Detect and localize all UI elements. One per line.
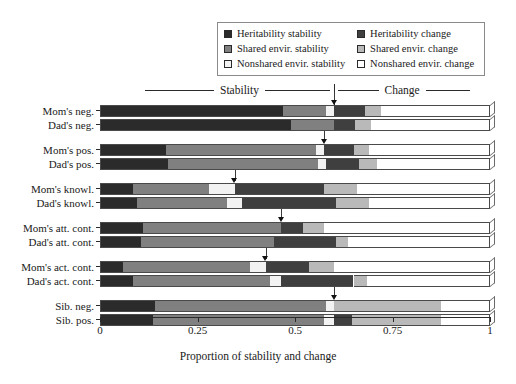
boundary-marker-arrow xyxy=(278,217,284,222)
bar-end-cap xyxy=(489,197,490,209)
bar-segment-heritability-change xyxy=(266,261,309,273)
bar-segment-shared-envir-stability xyxy=(123,261,250,273)
bar-segment-nonshared-envir-stability xyxy=(326,105,334,117)
bar-end-cap xyxy=(489,183,490,195)
bar-segment-shared-envir-change xyxy=(359,158,377,170)
bar-segment-nonshared-envir-change xyxy=(381,105,490,117)
bar-segment-shared-envir-stability xyxy=(133,183,209,195)
y-axis-label-11: Sib. pos. xyxy=(0,314,100,326)
bar-segment-shared-envir-stability xyxy=(133,275,270,287)
bar-segment-shared-envir-stability xyxy=(155,300,327,312)
y-axis-label-10: Sib. neg. xyxy=(0,300,100,312)
figure-panel: Heritability stability Heritability chan… xyxy=(0,0,516,384)
bar-segment-nonshared-envir-stability xyxy=(250,261,266,273)
legend-label: Nonshared envir. stability xyxy=(237,57,345,71)
header-rule xyxy=(145,90,214,91)
bar-segment-shared-envir-stability xyxy=(291,119,334,131)
legend-label: Heritability stability xyxy=(237,27,322,41)
boundary-marker-arrow xyxy=(262,256,268,261)
bar-side-face xyxy=(490,232,495,248)
bar-segment-shared-envir-change xyxy=(309,261,334,273)
legend-swatch-shared-change xyxy=(357,45,365,53)
legend-swatch-shared-stability xyxy=(224,45,232,53)
bar-segment-heritability-change xyxy=(235,183,325,195)
bar-segment-shared-envir-stability xyxy=(168,158,318,170)
bar-segment-heritability-stability xyxy=(100,236,141,248)
bar-row: Sib. neg. xyxy=(100,300,490,312)
legend-item-heritability-change: Heritability change xyxy=(357,27,478,41)
bar-segment-heritability-stability xyxy=(100,197,137,209)
legend-swatch-nonshared-change xyxy=(357,60,365,68)
bar-segment-heritability-change xyxy=(281,275,353,287)
y-axis-label-8: Mom's act. cont. xyxy=(0,261,100,273)
bar-end-cap xyxy=(489,158,490,170)
bar-segment-nonshared-envir-change xyxy=(357,183,490,195)
bar-row: Mom's knowl. xyxy=(100,183,490,195)
x-tick-label-0: 0 xyxy=(97,324,103,336)
bar-segment-nonshared-envir-change xyxy=(369,197,490,209)
legend-label: Shared envir. stability xyxy=(237,42,329,56)
bar-segment-shared-envir-change xyxy=(354,144,370,156)
bar-segment-heritability-stability xyxy=(100,105,283,117)
bar-end-cap xyxy=(489,144,490,156)
boundary-marker-arrow xyxy=(321,139,327,144)
y-axis-label-0: Mom's neg. xyxy=(0,105,100,117)
y-axis-label-1: Dad's neg. xyxy=(0,119,100,131)
x-tick xyxy=(295,317,296,322)
bar-side-face xyxy=(490,115,495,131)
bar-segment-nonshared-envir-stability xyxy=(326,300,334,312)
bar-end-cap xyxy=(489,300,490,312)
bar-side-face xyxy=(490,193,495,209)
bar-segment-shared-envir-change xyxy=(336,236,348,248)
bar-segment-shared-envir-change xyxy=(334,300,441,312)
legend-grid: Heritability stability Heritability chan… xyxy=(224,27,478,71)
header-rule xyxy=(265,90,330,91)
bar-segment-nonshared-envir-stability xyxy=(318,158,326,170)
x-tick xyxy=(490,317,491,322)
change-annotation-label: Change xyxy=(385,84,420,96)
plot-area: Mom's neg.Dad's neg.Mom's pos.Dad's pos.… xyxy=(100,105,490,317)
y-axis-label-4: Mom's knowl. xyxy=(0,183,100,195)
boundary-marker-arrow xyxy=(231,178,237,183)
bar-segment-heritability-change xyxy=(334,119,355,131)
y-axis-label-7: Dad's att. cont. xyxy=(0,236,100,248)
legend-item-nonshared-change: Nonshared envir. change xyxy=(357,57,478,71)
bar-segment-nonshared-envir-stability xyxy=(209,183,234,195)
bar-segment-heritability-change xyxy=(324,144,353,156)
bar-segment-heritability-stability xyxy=(100,119,291,131)
bar-segment-heritability-stability xyxy=(100,183,133,195)
x-axis-label: Proportion of stability and change xyxy=(0,350,516,362)
bar-segment-heritability-change xyxy=(326,158,359,170)
legend-swatch-heritability-stability xyxy=(224,30,232,38)
bar-segment-nonshared-envir-change xyxy=(324,222,490,234)
bar-end-cap xyxy=(489,236,490,248)
bar-segment-shared-envir-stability xyxy=(143,222,281,234)
bar-segment-shared-envir-stability xyxy=(137,197,227,209)
bar-segment-heritability-stability xyxy=(100,275,133,287)
bar-segment-nonshared-envir-change xyxy=(441,314,490,326)
legend-item-nonshared-stability: Nonshared envir. stability xyxy=(224,57,349,71)
legend-item-shared-change: Shared envir. change xyxy=(357,42,478,56)
bar-segment-heritability-change xyxy=(334,105,365,117)
bar-segment-shared-envir-change xyxy=(324,183,357,195)
bar-side-face xyxy=(490,154,495,170)
bar-segment-heritability-stability xyxy=(100,158,168,170)
bar-segment-heritability-stability xyxy=(100,314,153,326)
bar-segment-heritability-change xyxy=(281,222,302,234)
legend-item-heritability-stability: Heritability stability xyxy=(224,27,349,41)
legend-label: Shared envir. change xyxy=(370,42,458,56)
bar-segment-shared-envir-change xyxy=(354,275,368,287)
bar-row: Mom's att. cont. xyxy=(100,222,490,234)
boundary-marker-arrow xyxy=(331,100,337,105)
bar-segment-shared-envir-change xyxy=(365,105,381,117)
bar-row: Dad's neg. xyxy=(100,119,490,131)
y-axis-label-2: Mom's pos. xyxy=(0,144,100,156)
legend-label: Nonshared envir. change xyxy=(370,57,474,71)
bar-row: Mom's neg. xyxy=(100,105,490,117)
bar-segment-heritability-stability xyxy=(100,144,166,156)
bar-segment-nonshared-envir-change xyxy=(371,119,490,131)
x-tick xyxy=(393,317,394,322)
bar-segment-heritability-stability xyxy=(100,300,155,312)
y-axis-label-9: Dad's act. cont. xyxy=(0,275,100,287)
y-axis-label-6: Mom's att. cont. xyxy=(0,222,100,234)
